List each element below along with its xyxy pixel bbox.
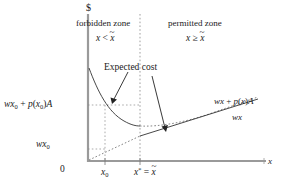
xtick-label-xstar: x* = x [134, 167, 156, 177]
annotation-arrow-right-shaft [152, 76, 165, 128]
expected-cost-curve-solid [89, 68, 140, 126]
ytick-label-lower: wx0 [36, 140, 50, 150]
xtick-label-x0: x0 [101, 168, 108, 178]
expected-cost-annotation: Expected cost [104, 63, 157, 73]
curve-label-wage-line: wx [232, 113, 242, 122]
permitted-zone-title: permitted zone [168, 19, 222, 28]
ytick-label-upper: wx0 + p(x0)A [4, 100, 52, 110]
origin-label: 0 [60, 165, 65, 175]
curve-label-expected-cost: wx + p(x)A [214, 97, 254, 106]
cost-diagram-figure: $ x forbidden zone x < x permitted zone … [0, 0, 282, 192]
permitted-zone-condition: x ≥ x [186, 34, 204, 44]
forbidden-zone-condition: x < x [96, 34, 115, 44]
annotation-arrow-left-shaft [113, 72, 128, 101]
x-axis-label: x [268, 157, 272, 166]
forbidden-zone-title: forbidden zone [76, 19, 130, 28]
wage-line-dotted [89, 136, 140, 160]
annotation-arrow-left-head [111, 98, 118, 105]
y-axis-label: $ [86, 3, 91, 13]
